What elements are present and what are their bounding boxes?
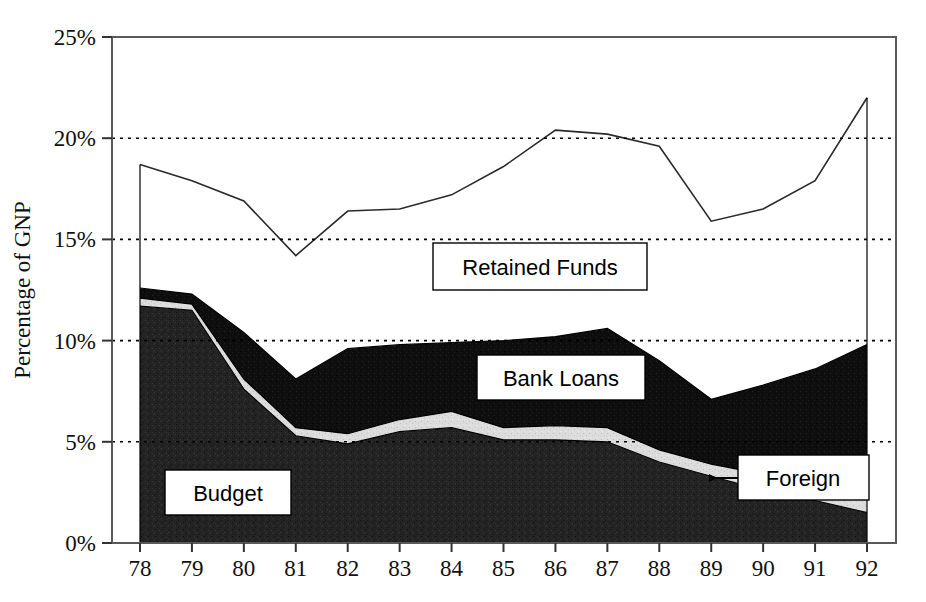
y-axis-ticks xyxy=(102,37,112,543)
x-tick-label: 83 xyxy=(388,556,411,581)
x-tick-label: 89 xyxy=(700,556,723,581)
y-axis-title: Percentage of GNP xyxy=(10,201,35,379)
x-axis-ticks xyxy=(140,543,867,552)
y-tick-label: 25% xyxy=(54,25,96,50)
x-tick-label: 79 xyxy=(180,556,203,581)
y-tick-label: 20% xyxy=(54,126,96,151)
bank-loans-label: Bank Loans xyxy=(503,366,619,391)
x-tick-label: 92 xyxy=(856,556,879,581)
x-tick-label: 87 xyxy=(596,556,619,581)
x-tick-label: 88 xyxy=(648,556,671,581)
y-tick-label: 0% xyxy=(65,531,96,556)
x-tick-label: 90 xyxy=(752,556,775,581)
budget-label: Budget xyxy=(193,481,263,506)
x-tick-label: 91 xyxy=(804,556,827,581)
y-tick-label: 10% xyxy=(54,329,96,354)
annotation-bank-loans: Bank Loans xyxy=(477,355,645,400)
y-axis-tick-labels: 0%5%10%15%20%25% xyxy=(54,25,96,556)
x-tick-label: 78 xyxy=(129,556,152,581)
stacked-area-chart: 0%5%10%15%20%25% 78798081828384858687888… xyxy=(0,0,926,602)
x-tick-label: 80 xyxy=(232,556,255,581)
retained-funds-label: Retained Funds xyxy=(462,255,617,280)
y-tick-label: 5% xyxy=(65,430,96,455)
x-tick-label: 86 xyxy=(544,556,567,581)
annotation-retained-funds: Retained Funds xyxy=(433,243,647,290)
x-tick-label: 85 xyxy=(492,556,515,581)
x-tick-label: 84 xyxy=(440,556,464,581)
x-tick-label: 81 xyxy=(284,556,307,581)
y-tick-label: 15% xyxy=(54,227,96,252)
annotation-budget: Budget xyxy=(165,470,291,515)
x-tick-label: 82 xyxy=(336,556,359,581)
x-axis-tick-labels: 787980818283848586878889909192 xyxy=(129,556,879,581)
foreign-label: Foreign xyxy=(766,466,841,491)
chart-container: 0%5%10%15%20%25% 78798081828384858687888… xyxy=(0,0,926,602)
